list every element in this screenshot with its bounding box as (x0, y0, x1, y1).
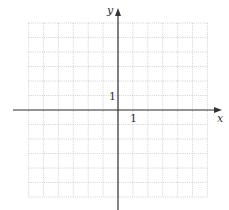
y-axis-label: y (106, 4, 114, 17)
x-tick-label: 1 (130, 112, 137, 125)
coordinate-plane: y x 1 1 (0, 0, 229, 210)
y-tick-label: 1 (109, 90, 116, 103)
y-axis-arrow-icon (115, 8, 121, 16)
x-axis-label: x (217, 112, 224, 125)
